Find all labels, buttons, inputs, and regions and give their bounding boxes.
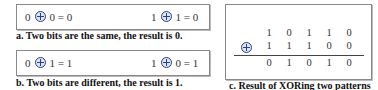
bit: 0 bbox=[283, 27, 295, 38]
caption-b: b. Two bits are different, the result is… bbox=[16, 77, 183, 88]
bit: 1 bbox=[263, 27, 275, 38]
xor-icon bbox=[161, 11, 172, 22]
result-bit: 1 bbox=[283, 57, 295, 68]
result-bit: 0 bbox=[343, 57, 355, 68]
result-bit: 0 bbox=[303, 57, 315, 68]
xor-icon bbox=[241, 42, 252, 53]
equals-sign: = bbox=[58, 57, 64, 69]
operand: 1 bbox=[176, 11, 182, 23]
result: 1 bbox=[67, 57, 73, 69]
caption-a: a. Two bits are the same, the result is … bbox=[16, 30, 182, 41]
operand: 1 bbox=[151, 57, 157, 69]
result: 0 bbox=[67, 11, 73, 23]
result-bit: 0 bbox=[263, 57, 275, 68]
equation-b2: 10 = 1 bbox=[151, 57, 198, 69]
result: 1 bbox=[193, 57, 199, 69]
operand: 0 bbox=[25, 57, 31, 69]
panel-c-box: 1 0 1 1 0 1 1 1 0 0 0 1 0 1 0 bbox=[225, 4, 372, 80]
result: 0 bbox=[193, 11, 199, 23]
panel-a-box: 00 = 0 11 = 0 bbox=[16, 4, 210, 30]
bit: 0 bbox=[343, 27, 355, 38]
panel-b-box: 01 = 1 10 = 1 bbox=[16, 50, 210, 76]
bit: 1 bbox=[263, 40, 275, 51]
bit: 1 bbox=[323, 27, 335, 38]
xor-icon bbox=[35, 57, 46, 68]
equation-a1: 00 = 0 bbox=[25, 11, 72, 23]
operand: 0 bbox=[176, 57, 182, 69]
result-bit: 1 bbox=[323, 57, 335, 68]
equation-a2: 11 = 0 bbox=[151, 11, 198, 23]
equals-sign: = bbox=[184, 57, 190, 69]
bit: 1 bbox=[303, 40, 315, 51]
operand: 1 bbox=[50, 57, 56, 69]
bit: 1 bbox=[303, 27, 315, 38]
operand: 0 bbox=[50, 11, 56, 23]
caption-c: c. Result of XORing two patterns bbox=[229, 80, 371, 90]
operand: 0 bbox=[25, 11, 31, 23]
bit: 0 bbox=[343, 40, 355, 51]
equals-sign: = bbox=[184, 11, 190, 23]
xor-icon bbox=[161, 57, 172, 68]
operand: 1 bbox=[151, 11, 157, 23]
xor-grid: 1 0 1 1 0 1 1 1 0 0 0 1 0 1 0 bbox=[226, 5, 371, 79]
bit: 1 bbox=[283, 40, 295, 51]
equals-sign: = bbox=[58, 11, 64, 23]
sum-rule bbox=[234, 55, 364, 56]
bit: 0 bbox=[323, 40, 335, 51]
xor-icon bbox=[35, 11, 46, 22]
equation-b1: 01 = 1 bbox=[25, 57, 72, 69]
